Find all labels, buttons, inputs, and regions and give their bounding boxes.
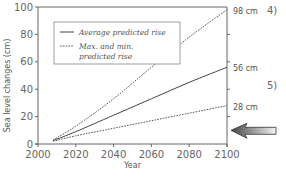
x-axis-label: Year	[123, 161, 142, 170]
y-tick-label: 40	[20, 84, 33, 95]
x-tick-label: 2000	[25, 149, 50, 160]
x-tick-label: 2100	[214, 149, 239, 160]
legend-label-maxmin-2: predicted rise	[79, 52, 133, 61]
y-tick-label: 80	[20, 29, 33, 40]
legend-label-average: Average predicted rise	[78, 28, 166, 37]
annotations: 98 cm56 cm28 cm4)5)	[233, 5, 277, 112]
sea-level-chart: 020406080100200020202040206020802100Year…	[0, 0, 286, 177]
x-tick-label: 2080	[176, 149, 201, 160]
x-tick-label: 2020	[63, 149, 88, 160]
y-tick-label: 100	[14, 2, 33, 13]
value-label: 98 cm	[233, 7, 258, 16]
legend-label-maxmin: Max. and min.	[78, 42, 133, 51]
arrow-icon	[231, 123, 276, 138]
question-number: 4)	[267, 5, 277, 16]
series-line-1	[53, 67, 227, 140]
x-tick-label: 2060	[139, 149, 164, 160]
y-axis-label: Sea level changes (cm)	[3, 39, 12, 133]
value-label: 28 cm	[233, 103, 258, 112]
value-label: 56 cm	[233, 64, 258, 73]
y-tick-label: 60	[20, 56, 33, 67]
y-tick-label: 20	[20, 111, 33, 122]
x-tick-label: 2040	[101, 149, 126, 160]
y-tick-label: 0	[27, 139, 33, 150]
question-number: 5)	[267, 80, 277, 91]
legend: Average predicted riseMax. and min.predi…	[54, 22, 180, 64]
